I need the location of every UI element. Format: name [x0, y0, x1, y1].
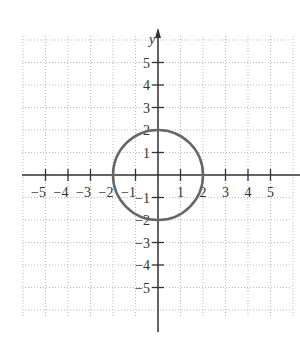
x-tick-label: 5	[267, 185, 274, 200]
x-tick-label: 1	[177, 185, 184, 200]
y-axis-label: y	[147, 32, 156, 47]
x-tick-label: −2	[99, 185, 114, 200]
y-tick-label: −5	[135, 281, 150, 296]
x-tick-label: −4	[54, 185, 69, 200]
x-tick-label: 4	[245, 185, 252, 200]
y-tick-label: −3	[135, 236, 150, 251]
y-tick-label: −4	[135, 258, 150, 273]
x-tick-label: −1	[121, 185, 136, 200]
y-axis-arrow-icon	[155, 28, 161, 38]
y-tick-label: 5	[143, 56, 150, 71]
y-tick-label: 4	[143, 78, 150, 93]
x-tick-label: −3	[76, 185, 91, 200]
y-tick-label: −1	[135, 191, 150, 206]
coordinate-plane: y−5−4−3−2−112345−5−4−3−2−112345	[0, 0, 300, 341]
y-tick-label: 1	[143, 146, 150, 161]
y-tick-label: 3	[143, 101, 150, 116]
x-tick-label: 3	[222, 185, 229, 200]
x-tick-label: −5	[31, 185, 46, 200]
